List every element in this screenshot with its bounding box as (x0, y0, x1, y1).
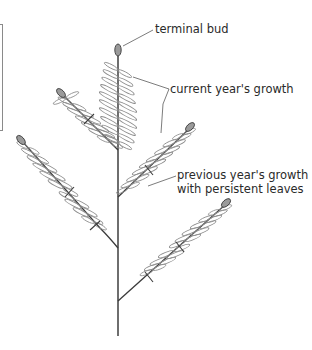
terminal-bud (115, 44, 121, 56)
label-terminal-bud: terminal bud (155, 22, 229, 36)
label-previous-growth-line2: with persistent leaves (177, 182, 304, 196)
branch-lower-left (15, 134, 118, 248)
leader-lines (123, 30, 176, 186)
branch-lower-right (118, 197, 232, 301)
label-previous-growth-line1: previous year's growth (177, 168, 308, 182)
label-current-growth: current year's growth (170, 82, 294, 96)
